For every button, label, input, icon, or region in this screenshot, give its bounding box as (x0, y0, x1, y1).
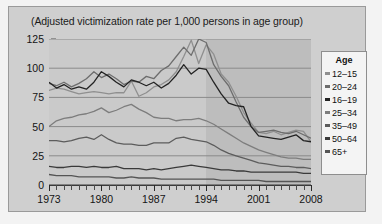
x-tick-mark (214, 185, 215, 190)
x-tick-mark (176, 185, 177, 190)
x-tick-mark (266, 185, 267, 190)
x-tick-mark (131, 185, 132, 190)
legend-item-label: 35–49 (332, 121, 357, 131)
chart-title: (Adjusted victimization rate per 1,000 p… (31, 15, 331, 27)
x-tick-mark (94, 185, 95, 190)
series-line (49, 135, 311, 169)
x-tick-mark (79, 185, 80, 190)
series-line (49, 165, 311, 173)
y-tick-label: 75 (32, 91, 44, 103)
x-tick-mark (101, 185, 102, 191)
legend-item-label: 25–34 (332, 108, 357, 118)
y-tick-label: 125 (26, 33, 44, 45)
x-tick-mark (281, 185, 282, 190)
x-tick-mark (296, 185, 297, 190)
x-tick-mark (236, 185, 237, 190)
legend-item[interactable]: 25–34 (322, 106, 366, 119)
x-tick-label: 1973 (37, 193, 60, 205)
x-tick-label: 2001 (247, 193, 270, 205)
x-tick-mark (251, 185, 252, 190)
legend-swatch-icon (325, 137, 330, 140)
legend-item-label: 12–15 (332, 69, 357, 79)
legend-swatch-icon (325, 85, 330, 88)
x-tick-mark (109, 185, 110, 190)
legend-item-label: 20–24 (332, 82, 357, 92)
series-line (49, 174, 311, 181)
legend-item[interactable]: 16–19 (322, 93, 366, 106)
series-lines (49, 39, 311, 185)
x-tick-label: 1994 (195, 193, 218, 205)
x-tick-mark (124, 185, 125, 190)
x-tick-label: 1980 (90, 193, 113, 205)
legend-item-label: 16–19 (332, 95, 357, 105)
legend-item[interactable]: 20–24 (322, 80, 366, 93)
x-tick-mark (289, 185, 290, 190)
y-axis: 0255075100125 (17, 39, 49, 185)
x-tick-mark (229, 185, 230, 190)
legend-item[interactable]: 35–49 (322, 119, 366, 132)
x-tick-mark (169, 185, 170, 190)
x-tick-mark (86, 185, 87, 190)
x-tick-mark (206, 185, 207, 191)
legend-title: Age (322, 55, 366, 65)
x-tick-mark (56, 185, 57, 190)
legend: Age 12–1520–2416–1925–3435–4950–6465+ (321, 51, 367, 175)
legend-swatch-icon (325, 124, 330, 127)
y-tick-label: 25 (32, 150, 44, 162)
x-tick-label: 2008 (299, 193, 322, 205)
x-axis-labels: 197319801987199420012008 (49, 193, 311, 209)
x-tick-mark (161, 185, 162, 190)
y-tick-label: 50 (32, 121, 44, 133)
legend-swatch-icon (325, 98, 330, 101)
y-tick-label: 100 (26, 62, 44, 74)
legend-item[interactable]: 12–15 (322, 67, 366, 80)
x-tick-label: 1987 (142, 193, 165, 205)
x-tick-mark (221, 185, 222, 190)
x-axis-ticks (49, 185, 311, 191)
x-tick-mark (244, 185, 245, 190)
x-tick-mark (311, 185, 312, 191)
plot-area (49, 39, 311, 185)
x-tick-mark (139, 185, 140, 190)
series-line (49, 39, 311, 138)
legend-item-label: 50–64 (332, 134, 357, 144)
x-tick-mark (146, 185, 147, 190)
x-tick-mark (49, 185, 50, 191)
legend-item[interactable]: 65+ (322, 145, 366, 158)
legend-item[interactable]: 50–64 (322, 132, 366, 145)
x-tick-mark (274, 185, 275, 190)
chart-figure: (Adjusted victimization rate per 1,000 p… (0, 0, 382, 224)
chart-panel: (Adjusted victimization rate per 1,000 p… (8, 6, 366, 212)
x-tick-mark (64, 185, 65, 190)
legend-swatch-icon (325, 111, 330, 114)
x-tick-mark (259, 185, 260, 191)
legend-swatch-icon (325, 150, 330, 153)
x-tick-mark (184, 185, 185, 190)
y-tick-label: 0 (38, 179, 44, 191)
x-tick-mark (304, 185, 305, 190)
legend-rows: 12–1520–2416–1925–3435–4950–6465+ (322, 67, 366, 158)
x-tick-mark (199, 185, 200, 190)
legend-swatch-icon (325, 72, 330, 75)
legend-item-label: 65+ (332, 147, 347, 157)
x-tick-mark (116, 185, 117, 190)
x-tick-mark (154, 185, 155, 191)
x-tick-mark (71, 185, 72, 190)
x-tick-mark (191, 185, 192, 190)
